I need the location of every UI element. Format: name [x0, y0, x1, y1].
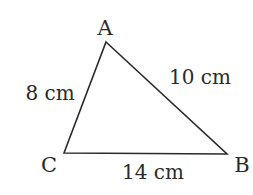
- vertex-label-a: A: [96, 16, 113, 40]
- triangle-figure: A B C 8 cm 10 cm 14 cm: [0, 0, 253, 195]
- side-label-cb: 14 cm: [122, 160, 184, 184]
- triangle-abc-shape: [64, 42, 227, 154]
- vertex-label-b: B: [234, 153, 249, 177]
- vertex-label-c: C: [41, 153, 57, 177]
- side-label-ac: 8 cm: [25, 81, 74, 105]
- side-label-ab: 10 cm: [169, 65, 231, 89]
- triangle-diagram: A B C 8 cm 10 cm 14 cm: [0, 0, 253, 195]
